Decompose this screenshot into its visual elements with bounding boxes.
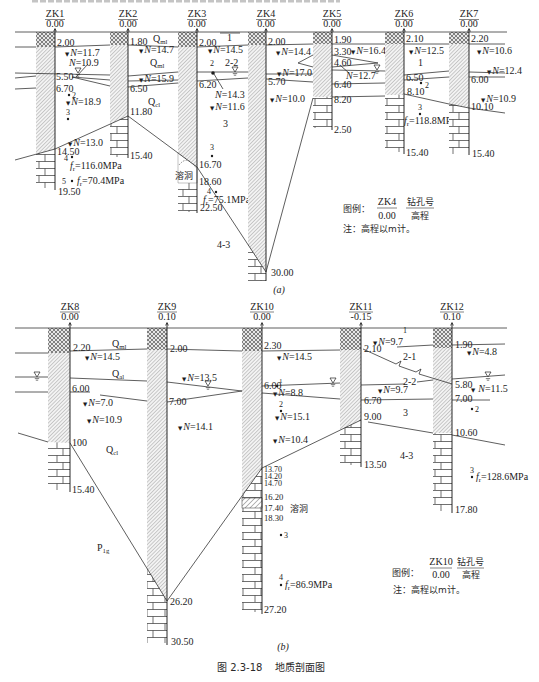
spt-value: ▼N=10.6 <box>477 45 512 56</box>
borehole-elevation: 0.00 <box>257 18 275 29</box>
spt-value: ▼N=11.5 <box>471 383 508 394</box>
depth-label: 2.20 <box>471 33 489 44</box>
fill-column <box>36 32 55 47</box>
depth-label: 18.30 <box>264 513 283 523</box>
clay-column <box>433 348 452 433</box>
rock-strength: fr=118.8MPa <box>404 115 456 127</box>
stratum-suffix: g <box>106 547 110 554</box>
fill-column <box>178 32 197 47</box>
depth-label: 6.50 <box>130 83 148 94</box>
water-table-icon <box>330 378 336 386</box>
spt-number: 12.4 <box>505 65 523 76</box>
clay-column <box>147 350 167 601</box>
spt-value: ▼N=8.8 <box>273 387 303 398</box>
limestone-column <box>48 441 70 490</box>
spt-number: 18.9 <box>84 96 102 107</box>
legend-id-description: 钻孔号 <box>457 556 484 567</box>
layer-label: 1 <box>403 326 407 335</box>
spt-number: 9.7 <box>391 336 404 347</box>
spt-number: 13.0 <box>86 137 104 148</box>
sample-point-icon <box>280 410 282 412</box>
sample-point-icon <box>471 476 473 478</box>
spt-number: 14.4 <box>294 46 312 57</box>
sample-point-icon <box>280 584 282 586</box>
clay-column <box>340 350 361 430</box>
spt-number: 10.9 <box>105 414 123 425</box>
spt-value: ▼N=10.4 <box>273 434 308 445</box>
depth-label: 100 <box>72 437 87 448</box>
sample-point-icon <box>420 82 422 84</box>
stratum-subscript: cl <box>113 449 118 456</box>
borehole-elevation: 0.00 <box>323 18 341 29</box>
sample-number: 4 <box>64 154 68 163</box>
fill-column <box>433 328 452 348</box>
section-a: ZK1 0.00 2.00 5.50 6.70 14.50 19.50 ▼N=1… <box>15 8 522 296</box>
legend-borehole-id: ZK10 <box>429 556 452 567</box>
fill-column <box>147 328 167 350</box>
stratum-label-qcl: Qcl <box>148 96 160 108</box>
spt-number: 16.4 <box>369 45 387 56</box>
spt-number: 7.0 <box>101 397 114 408</box>
stratum-subscript: ml <box>160 38 167 45</box>
borehole-zk2: ZK2 0.00 1.80 6.50 11.80 15.40 ▼N=14.7 ▼… <box>110 8 174 161</box>
legend-id-description: 钻孔号 <box>407 196 434 207</box>
legend-prefix: 图例： <box>392 567 419 578</box>
borehole-elevation: 0.10 <box>443 311 461 322</box>
borehole-elevation: -0.15 <box>351 311 372 322</box>
borehole-zk6: ZK6 0.00 2.10 6.50 8.10 15.40 ▼N=12.5 2 … <box>385 8 456 158</box>
spt-value: ▼N=11.6 <box>210 101 245 112</box>
borehole-elevation: 0.00 <box>253 311 271 322</box>
spt-marker-icon: ▼ <box>471 387 476 393</box>
spt-value: ▼N=14.5 <box>277 351 312 362</box>
depth-label: 8.20 <box>334 94 352 105</box>
fill-column <box>110 32 128 45</box>
layer-label: 2-2 <box>403 376 416 387</box>
depth-label: 5.80 <box>455 379 473 390</box>
depth-label: 2.00 <box>170 343 188 354</box>
spt-value: ▼N=13.0 <box>68 137 103 148</box>
legend-b: 图例： ZK10 0.00 钻孔号 高程 注：高程以m计。 <box>392 556 484 595</box>
sample-point-icon <box>471 408 473 410</box>
fill-column <box>242 328 262 351</box>
borehole-zk7: ZK7 0.00 2.20 6.00 10.10 15.40 ▼N=10.6 ▼… <box>449 8 522 159</box>
limestone-column <box>449 104 469 154</box>
layer-label: 1 <box>227 32 232 43</box>
depth-label: 2.50 <box>334 124 352 135</box>
sample-point-icon <box>67 118 69 120</box>
spt-number: 12.5 <box>427 45 445 56</box>
depth-label: 16.70 <box>199 159 222 170</box>
sample-number: 2 <box>475 405 479 414</box>
borehole-zk12: ZK12 0.10 1.90 5.80 7.00 10.60 17.80 ▼N=… <box>433 301 529 515</box>
stratum-label-qml: Qml <box>112 338 127 350</box>
borehole-elevation: 0.00 <box>395 18 413 29</box>
depth-label: 7.00 <box>455 393 473 404</box>
spt-number: 14.1 <box>196 421 214 432</box>
layer-label: 2-2 <box>225 57 238 68</box>
spt-value: N=12.7 <box>345 70 376 81</box>
spt-value: ▼N=12.4 <box>487 65 522 76</box>
borehole-zk9: ZK9 0.10 2.00 7.00 26.20 30.50 ▼N=13.5 ▼… <box>147 301 217 647</box>
sample-number: 3 <box>210 143 214 152</box>
layer-label: 3 <box>403 407 408 418</box>
layer-label: 4-3 <box>217 239 230 250</box>
depth-label: 15.40 <box>72 484 95 495</box>
spt-number: 11.5 <box>491 383 508 394</box>
sample-number: 2 <box>72 91 76 100</box>
sample-point-icon <box>71 156 73 158</box>
sample-point-icon <box>68 94 70 96</box>
sample-point-icon <box>215 191 217 193</box>
depth-label: 1.90 <box>334 34 352 45</box>
spt-number: 11.6 <box>228 101 245 112</box>
strength-value: 116.0MPa <box>81 160 123 171</box>
legend-elevation: 0.00 <box>378 210 396 221</box>
depth-label: 9.00 <box>364 411 382 422</box>
stratum-label-p1g: P1g <box>97 542 110 554</box>
depth-label: 6.70 <box>56 83 74 94</box>
layer-label: 4-3 <box>400 450 413 461</box>
borehole-elevation: 0.00 <box>119 18 137 29</box>
strength-value: 86.9MPa <box>296 579 333 590</box>
depth-label: 5.50 <box>56 71 74 82</box>
depth-label: 2.20 <box>73 342 91 353</box>
sample-number: 3 <box>418 103 422 112</box>
stratum-subscript: cl <box>155 101 160 108</box>
